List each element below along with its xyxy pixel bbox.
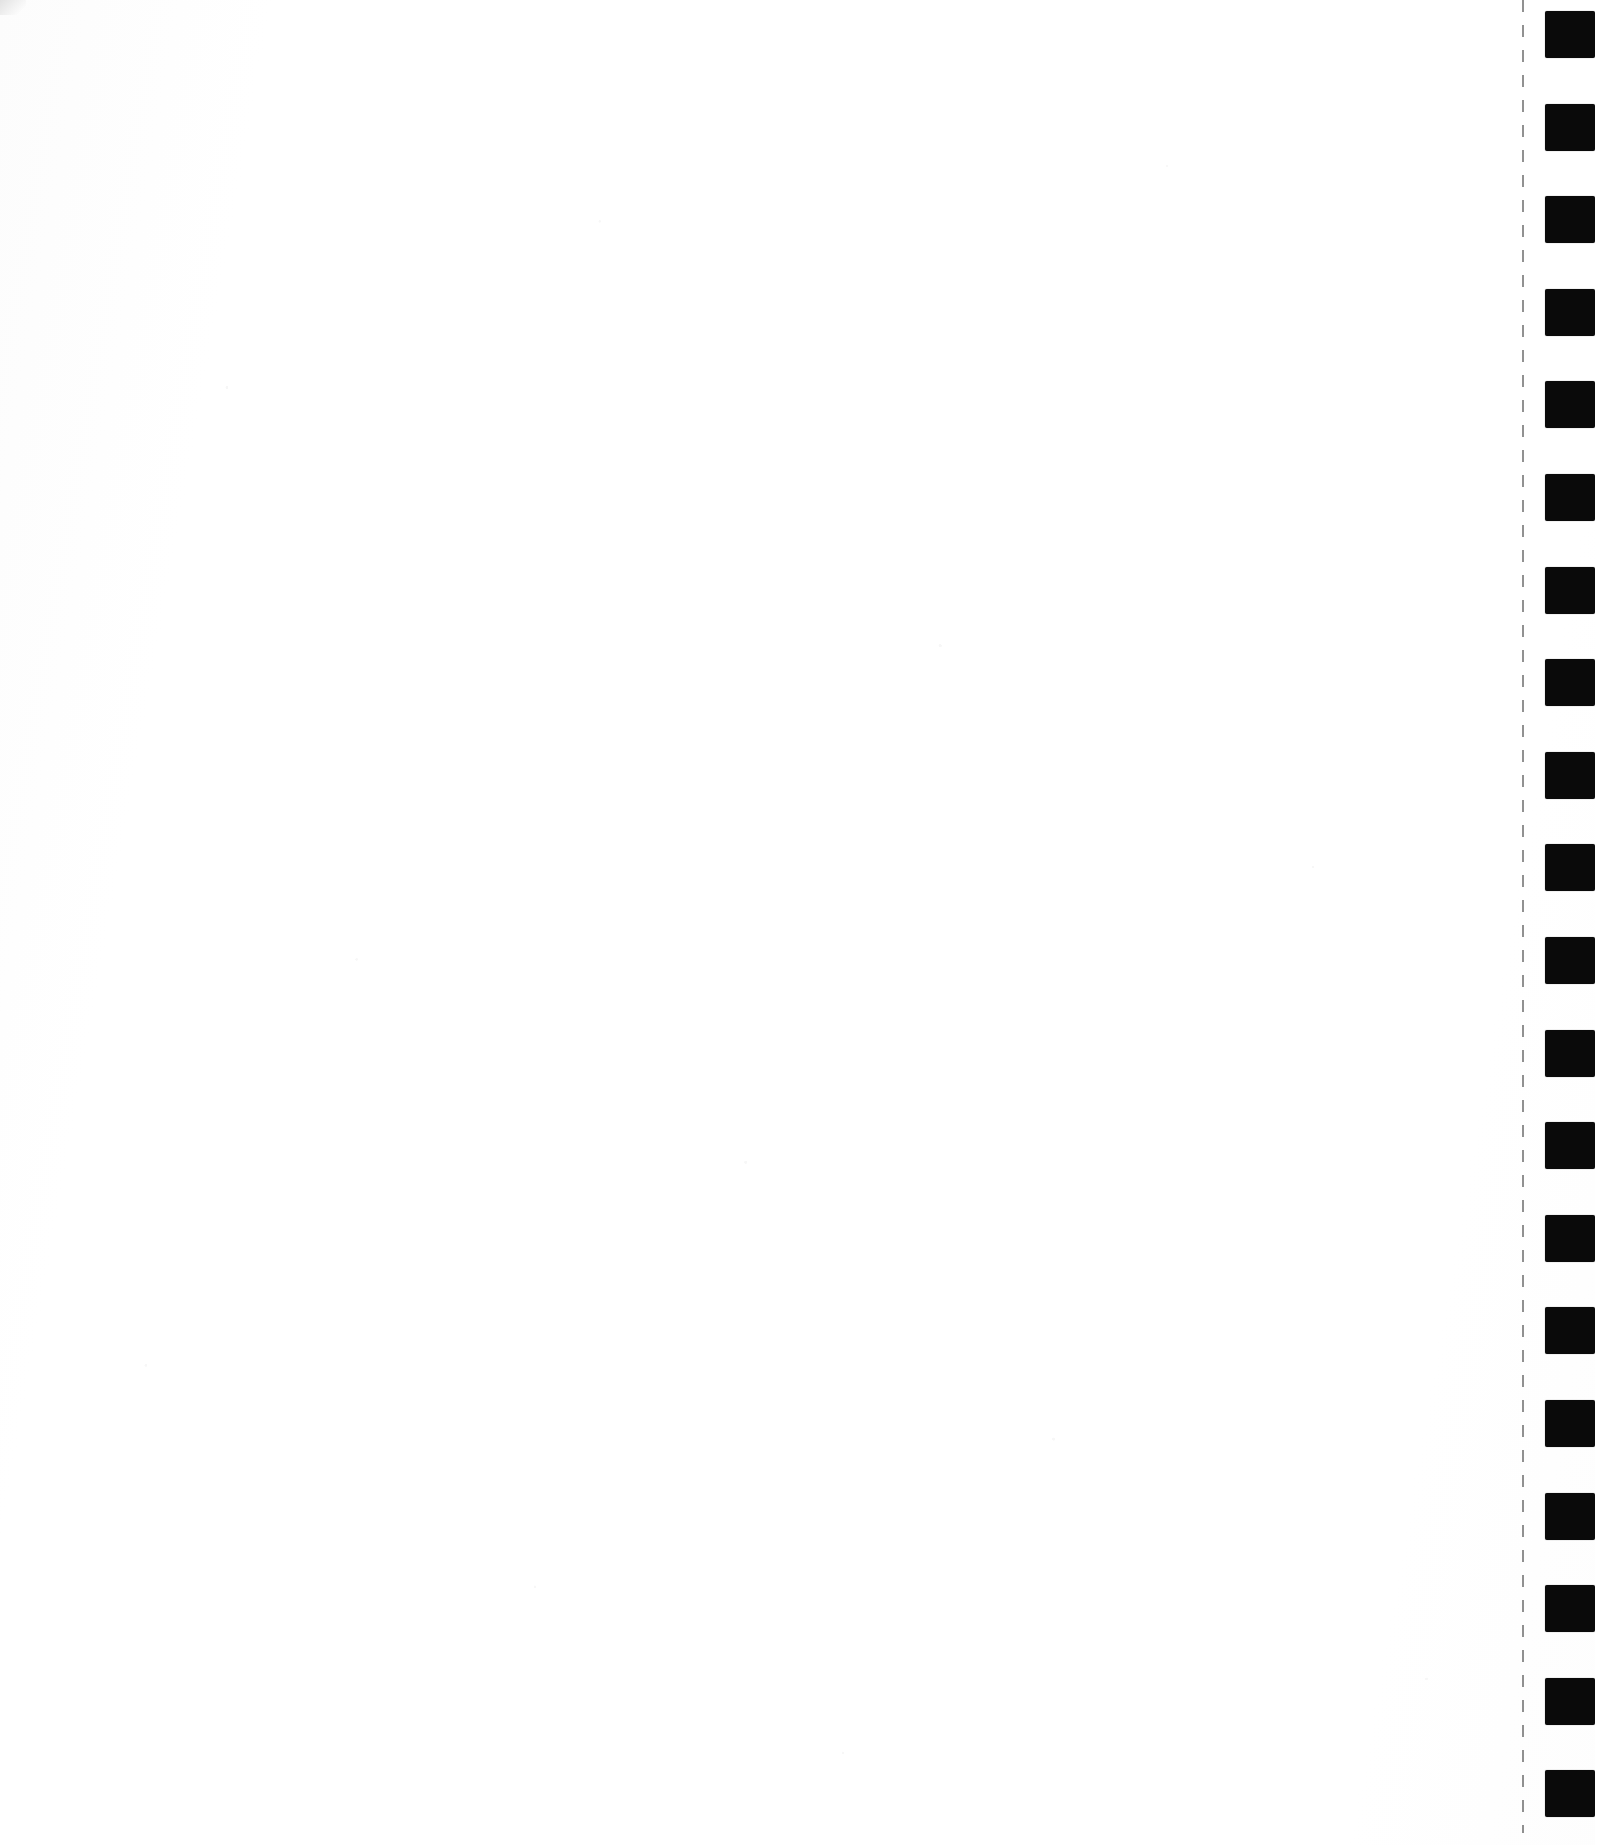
- registration-mark: [1545, 937, 1595, 984]
- registration-mark-column: [1545, 0, 1595, 1845]
- perforation-dashed-line: [1522, 0, 1524, 1833]
- registration-mark: [1545, 289, 1595, 336]
- registration-mark: [1545, 1493, 1595, 1540]
- registration-mark: [1545, 1215, 1595, 1262]
- registration-mark: [1545, 567, 1595, 614]
- registration-mark: [1545, 1122, 1595, 1169]
- registration-mark: [1545, 381, 1595, 428]
- registration-mark: [1545, 11, 1595, 58]
- registration-mark: [1545, 1307, 1595, 1354]
- registration-mark: [1545, 1400, 1595, 1447]
- right-margin-bleed: [1595, 0, 1621, 1845]
- registration-mark: [1545, 1678, 1595, 1725]
- registration-mark: [1545, 752, 1595, 799]
- registration-mark: [1545, 1030, 1595, 1077]
- scanned-document-page: [0, 0, 1621, 1845]
- top-left-scan-shadow: [0, 0, 26, 15]
- registration-mark: [1545, 659, 1595, 706]
- page-body-text: [90, 90, 1470, 1750]
- registration-mark: [1545, 1585, 1595, 1632]
- registration-mark: [1545, 104, 1595, 151]
- registration-mark: [1545, 844, 1595, 891]
- registration-mark: [1545, 474, 1595, 521]
- registration-mark: [1545, 1770, 1595, 1817]
- registration-mark: [1545, 196, 1595, 243]
